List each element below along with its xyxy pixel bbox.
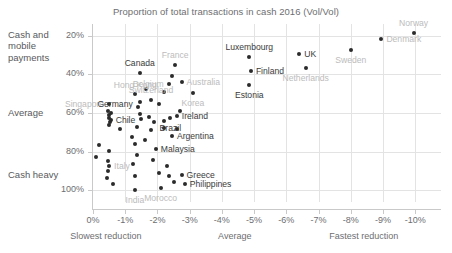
data-point[interactable] bbox=[107, 123, 111, 127]
data-point-label: India bbox=[126, 195, 145, 205]
data-point[interactable] bbox=[349, 48, 353, 52]
x-axis-tick bbox=[190, 209, 191, 214]
data-point[interactable] bbox=[136, 105, 140, 109]
data-point[interactable] bbox=[138, 112, 142, 116]
data-point[interactable] bbox=[106, 159, 110, 163]
data-point[interactable] bbox=[170, 74, 174, 78]
data-point[interactable] bbox=[97, 143, 101, 147]
x-axis-tick-label: -10% bbox=[405, 215, 426, 225]
data-point[interactable] bbox=[149, 128, 153, 132]
data-point[interactable] bbox=[159, 186, 163, 190]
data-point-label: Sweden bbox=[335, 55, 366, 65]
gridline-horizontal bbox=[93, 113, 441, 114]
data-point-label: France bbox=[162, 50, 189, 60]
data-point-label: Estonia bbox=[235, 90, 264, 100]
data-point[interactable] bbox=[379, 37, 383, 41]
data-point[interactable] bbox=[183, 182, 187, 186]
data-point[interactable] bbox=[138, 100, 142, 104]
x-axis-tick bbox=[286, 209, 287, 214]
data-point[interactable] bbox=[180, 173, 184, 177]
gridline-horizontal bbox=[93, 152, 441, 153]
data-point-label: Argentina bbox=[177, 131, 214, 141]
data-point-label: Canada bbox=[125, 58, 155, 68]
data-point[interactable] bbox=[154, 147, 158, 151]
data-point[interactable] bbox=[133, 174, 137, 178]
data-point[interactable] bbox=[165, 164, 169, 168]
y-category-label: Cash and mobile payments bbox=[8, 29, 64, 64]
x-axis-tick bbox=[222, 209, 223, 214]
data-point[interactable] bbox=[180, 80, 184, 84]
y-category-label: Average bbox=[8, 107, 48, 119]
y-axis-tick-label: 100% bbox=[50, 184, 84, 194]
data-point[interactable] bbox=[133, 188, 137, 192]
data-point-label: Ireland bbox=[182, 111, 208, 121]
x-axis-tick bbox=[125, 209, 126, 214]
data-point-label: Finland bbox=[256, 66, 284, 76]
data-point-label: Malaysia bbox=[161, 144, 195, 154]
data-point[interactable] bbox=[157, 102, 161, 106]
data-point[interactable] bbox=[173, 63, 177, 67]
x-axis-tick-label: -8% bbox=[343, 215, 359, 225]
x-axis-tick-label: -2% bbox=[149, 215, 165, 225]
data-point[interactable] bbox=[147, 115, 151, 119]
data-point[interactable] bbox=[105, 176, 109, 180]
data-point[interactable] bbox=[152, 120, 156, 124]
data-point[interactable] bbox=[247, 55, 251, 59]
scatter-chart: Proportion of total transactions in cash… bbox=[0, 0, 452, 253]
x-axis-tick bbox=[319, 209, 320, 214]
data-point-label: Korea bbox=[181, 98, 204, 108]
data-point[interactable] bbox=[109, 111, 113, 115]
data-point[interactable] bbox=[107, 149, 111, 153]
data-point-label: Luxembourg bbox=[225, 42, 273, 52]
data-point[interactable] bbox=[131, 162, 135, 166]
x-axis-tick-label: -1% bbox=[117, 215, 133, 225]
data-point[interactable] bbox=[130, 135, 134, 139]
data-point[interactable] bbox=[191, 91, 195, 95]
y-category-label: Cash heavy bbox=[8, 169, 48, 181]
data-point[interactable] bbox=[139, 117, 143, 121]
data-point[interactable] bbox=[118, 127, 122, 131]
x-axis-tick bbox=[383, 209, 384, 214]
x-axis-tick-label: -7% bbox=[311, 215, 327, 225]
x-axis-tick-label: -4% bbox=[214, 215, 230, 225]
x-axis-tick bbox=[254, 209, 255, 214]
data-point-label: UK bbox=[304, 49, 316, 59]
data-point[interactable] bbox=[94, 155, 98, 159]
data-point[interactable] bbox=[111, 182, 115, 186]
x-axis-tick-label: -9% bbox=[375, 215, 391, 225]
data-point[interactable] bbox=[135, 125, 139, 129]
data-point[interactable] bbox=[172, 180, 176, 184]
data-point[interactable] bbox=[133, 142, 137, 146]
data-point[interactable] bbox=[297, 52, 301, 56]
y-axis-tick bbox=[88, 113, 93, 114]
data-point[interactable] bbox=[143, 138, 147, 142]
data-point-label: Germany bbox=[97, 99, 132, 109]
x-axis-tick bbox=[415, 209, 416, 214]
data-point-label: Italy bbox=[114, 161, 130, 171]
data-point-label: Chile bbox=[116, 115, 136, 125]
data-point[interactable] bbox=[167, 174, 171, 178]
data-point[interactable] bbox=[149, 98, 153, 102]
x-axis-annotation: Fastest reduction bbox=[329, 231, 398, 241]
data-point[interactable] bbox=[106, 169, 110, 173]
data-point[interactable] bbox=[249, 69, 253, 73]
data-point-label: Netherlands bbox=[282, 73, 328, 83]
data-point[interactable] bbox=[151, 158, 155, 162]
data-point[interactable] bbox=[138, 71, 142, 75]
data-point[interactable] bbox=[107, 164, 111, 168]
data-point-label: Australia bbox=[187, 77, 220, 87]
data-point[interactable] bbox=[157, 171, 161, 175]
data-point[interactable] bbox=[304, 66, 308, 70]
data-point[interactable] bbox=[168, 116, 172, 120]
y-axis-tick-label: 80% bbox=[50, 146, 84, 156]
data-point[interactable] bbox=[247, 83, 251, 87]
data-point[interactable] bbox=[170, 134, 174, 138]
data-point-label: Denmark bbox=[386, 34, 421, 44]
x-axis-tick-label: -5% bbox=[246, 215, 262, 225]
y-axis-tick bbox=[88, 74, 93, 75]
data-point-label: Norway bbox=[399, 18, 428, 28]
data-point[interactable] bbox=[109, 118, 113, 122]
data-point[interactable] bbox=[135, 153, 139, 157]
y-axis-tick bbox=[88, 190, 93, 191]
data-point[interactable] bbox=[175, 114, 179, 118]
